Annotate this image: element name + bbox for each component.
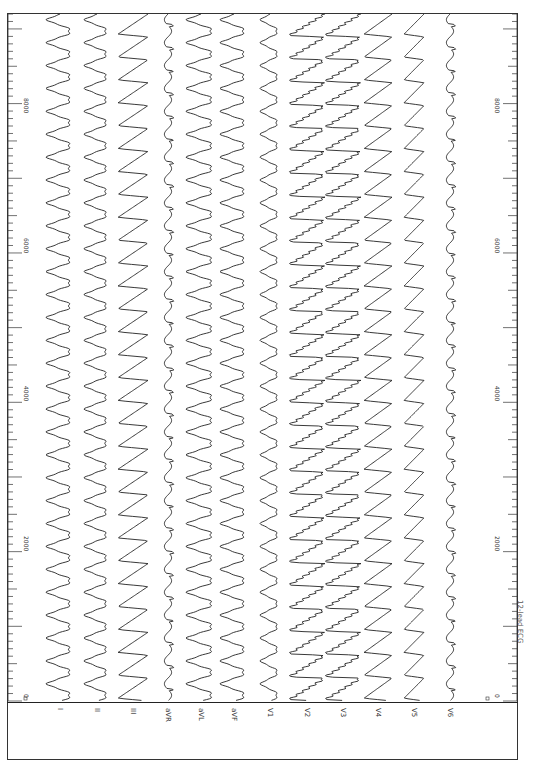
right-tick-6000: 6000 [494,238,501,253]
lead-label-aVL: aVL [197,708,205,721]
lead-label-aVR: aVR [164,708,172,722]
trace-V1 [260,14,277,700]
trace-V6 [446,14,455,700]
lead-label-V1: V1 [266,708,274,717]
lead-label-II: II [93,708,101,712]
lead-label-V6: V6 [446,708,454,717]
trace-III [118,14,148,700]
lead-label-I: I [56,708,64,710]
left-tick-8000: 8000 [23,98,30,113]
right-tick-0: 0 [494,694,501,698]
trace-aVR [164,14,173,700]
trace-V5 [404,14,424,700]
trace-V4 [364,14,392,700]
left-tick-4000: 4000 [23,386,30,401]
right-tick-4000: 4000 [494,386,501,401]
left-tick-2000: 2000 [23,536,30,551]
trace-V2 [289,14,325,700]
right-tick-2000: 2000 [494,536,501,551]
right-tick-8000: 8000 [494,98,501,113]
lead-label-V4: V4 [374,708,382,717]
ecg-plot [0,0,534,773]
left-tick-6000: 6000 [23,238,30,253]
lead-label-III: III [129,708,137,714]
lead-label-V2: V2 [303,708,311,717]
trace-V3 [325,14,361,700]
lead-label-aVF: aVF [230,708,238,721]
lead-label-V3: V3 [339,708,347,717]
trace-aVF [220,14,244,700]
trace-II [84,14,106,700]
lead-label-V5: V5 [410,708,418,717]
left-tick-0: 0 [23,694,30,698]
figure-caption: 12-lead ECG [516,600,524,643]
trace-aVL [186,14,211,700]
trace-I [46,14,70,700]
